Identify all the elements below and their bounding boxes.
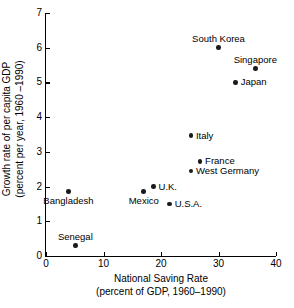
y-axis-title: Growth rate of per capita GDP (percent p… [0, 0, 28, 258]
data-point-label: U.S.A. [175, 199, 202, 209]
y-tick-label: 6 [36, 43, 42, 53]
y-tick-mark [46, 221, 50, 222]
x-tick-label: 20 [155, 259, 166, 269]
x-axis-title: National Saving Rate (percent of GDP, 19… [46, 272, 276, 298]
data-point [198, 159, 203, 164]
y-tick-label: 5 [36, 77, 42, 87]
x-axis-title-sub: (percent of GDP, 1960–1990) [46, 285, 276, 298]
data-point [233, 80, 238, 85]
x-tick-mark [104, 252, 105, 256]
x-tick-mark [46, 252, 47, 256]
y-tick-mark [46, 256, 50, 257]
data-point [141, 189, 146, 194]
y-tick-label: 0 [36, 251, 42, 261]
x-axis-title-main: National Saving Rate [46, 272, 276, 285]
y-tick-mark [46, 187, 50, 188]
data-point [66, 189, 71, 194]
data-point [189, 133, 194, 138]
x-axis-line [45, 256, 276, 257]
y-axis-title-main: Growth rate of per capita GDP [0, 0, 13, 258]
plot-area: 01234567 010203040 South KoreaSingaporeJ… [46, 13, 276, 256]
y-axis-title-sub: (percent per year, 1960 –1990) [13, 0, 26, 258]
data-point [253, 66, 258, 71]
data-point [167, 202, 172, 207]
data-point [216, 45, 221, 50]
x-tick-mark [219, 252, 220, 256]
y-tick-mark [46, 48, 50, 49]
y-tick-mark [46, 152, 50, 153]
x-tick-label: 0 [43, 259, 49, 269]
x-tick-label: 10 [98, 259, 109, 269]
data-point-label: Bangladesh [43, 196, 93, 206]
data-point-label: South Korea [192, 34, 245, 44]
y-tick-mark [46, 13, 50, 14]
data-point-label: Japan [241, 77, 267, 87]
data-point-label: Singapore [234, 55, 277, 65]
data-point-label: West Germany [196, 166, 259, 176]
y-tick-label: 2 [36, 182, 42, 192]
data-point [189, 169, 194, 174]
x-tick-label: 30 [213, 259, 224, 269]
y-tick-mark [46, 117, 50, 118]
y-tick-label: 1 [36, 216, 42, 226]
data-point [73, 243, 78, 248]
data-point-label: U.K. [159, 182, 177, 192]
y-tick-label: 7 [36, 8, 42, 18]
y-tick-mark [46, 82, 50, 83]
x-tick-label: 40 [270, 259, 281, 269]
data-point-label: Italy [196, 131, 213, 141]
data-point-label: Senegal [58, 232, 93, 242]
data-point-label: Mexico [129, 196, 159, 206]
x-tick-mark [276, 252, 277, 256]
y-tick-label: 3 [36, 147, 42, 157]
data-point [151, 184, 156, 189]
scatter-plot-figure: 01234567 010203040 South KoreaSingaporeJ… [0, 0, 294, 308]
x-tick-mark [161, 252, 162, 256]
y-tick-label: 4 [36, 112, 42, 122]
